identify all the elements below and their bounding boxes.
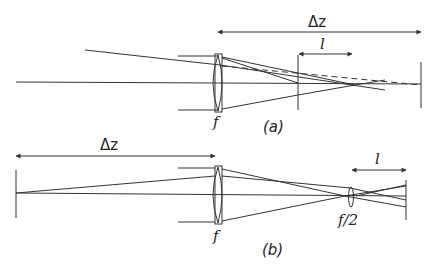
- lens-f-label-b: f: [213, 229, 219, 244]
- l-label-b: l: [375, 152, 380, 167]
- caption-b: (b): [262, 243, 283, 258]
- optics-diagram: Δz l f (a) Δz l f f/2 (b): [0, 0, 434, 270]
- l-label-a: l: [320, 37, 325, 52]
- delta-z-label-a: Δz: [308, 15, 326, 30]
- lens-f-label-a: f: [213, 115, 219, 130]
- dashed-ray-a: [222, 66, 421, 85]
- lens-f-half-label-b: f/2: [338, 213, 358, 228]
- panel-a-drawing: [16, 32, 421, 112]
- delta-z-label-b: Δz: [100, 138, 118, 153]
- caption-a: (a): [263, 120, 284, 135]
